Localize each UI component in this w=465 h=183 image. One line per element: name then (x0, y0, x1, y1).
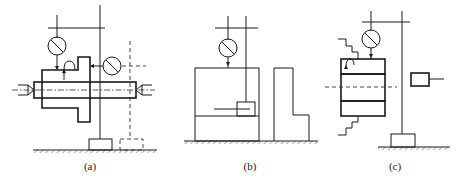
l-block (274, 68, 309, 141)
rotation-arrowhead-icon (344, 65, 348, 69)
dial-needle (222, 42, 234, 54)
dial-needle (51, 40, 63, 52)
alt-stand-base (120, 139, 143, 150)
base-block (195, 68, 259, 141)
panel-label-c: (c) (389, 160, 402, 173)
panel-b: (b) (184, 16, 318, 173)
stepped-profile-bottom (338, 116, 358, 135)
panel-a: (a) (12, 5, 157, 173)
rotation-arrow-icon (346, 59, 354, 67)
dial-needle (365, 33, 377, 45)
probe-arrow-icon (369, 54, 373, 58)
gauge-block (411, 73, 429, 86)
panel-c: (c) (325, 11, 450, 173)
panel-label-a: (a) (84, 160, 97, 173)
stand-base (391, 134, 415, 147)
bushing-bore (341, 74, 385, 101)
probe-arrow-icon (226, 62, 230, 66)
bushing-bottom-wall (341, 101, 385, 116)
rotation-arrow-icon (64, 61, 75, 70)
bushing-top-wall (341, 59, 385, 74)
stepped-profile-top (338, 39, 358, 59)
flanged-workpiece (42, 57, 90, 122)
panel-label-b: (b) (244, 160, 257, 173)
stand-base (89, 139, 112, 150)
dial-needle-side (106, 60, 118, 72)
diagram-canvas: (a) (b) (0, 0, 465, 183)
